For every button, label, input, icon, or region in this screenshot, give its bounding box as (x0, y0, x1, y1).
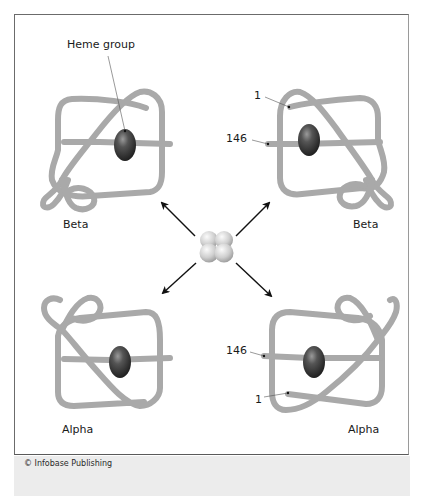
subunit-label-top-left: Beta (63, 218, 88, 231)
alpha-chain-bottom-right (264, 298, 397, 410)
heme-group-label: Heme group (67, 38, 135, 51)
heme-icon-top-left (114, 129, 136, 161)
beta-chain-top-left (43, 92, 170, 210)
residue-label-146-bottom-right: 146 (226, 344, 247, 357)
arrow-to-bottom-left (163, 263, 196, 293)
heme-icon-top-right (298, 124, 320, 156)
residue-label-1-top-right: 1 (254, 89, 261, 102)
hemoglobin-tetramer-icon (200, 231, 234, 263)
subunit-label-bottom-right: Alpha (348, 423, 379, 436)
heme-icon-bottom-left (109, 346, 131, 378)
c-terminus-pointer-top-right (252, 140, 268, 144)
arrow-to-top-right (236, 203, 269, 236)
residue-label-146-top-right: 146 (226, 132, 247, 145)
n-terminus-pointer-bottom-right (264, 393, 288, 397)
arrow-to-bottom-right (236, 263, 271, 296)
subunit-label-top-right: Beta (353, 218, 378, 231)
beta-chain-top-right (268, 92, 391, 208)
residue-label-1-bottom-right: 1 (255, 393, 262, 406)
copyright-notice: © Infobase Publishing (24, 459, 112, 468)
alpha-chain-bottom-left (44, 298, 170, 406)
heme-icon-bottom-right (303, 346, 325, 378)
subunit-label-bottom-left: Alpha (62, 423, 93, 436)
hemoglobin-diagram: Heme group Beta 1 146 Beta Alpha 146 1 A… (0, 0, 431, 496)
arrow-to-top-left (162, 203, 195, 236)
